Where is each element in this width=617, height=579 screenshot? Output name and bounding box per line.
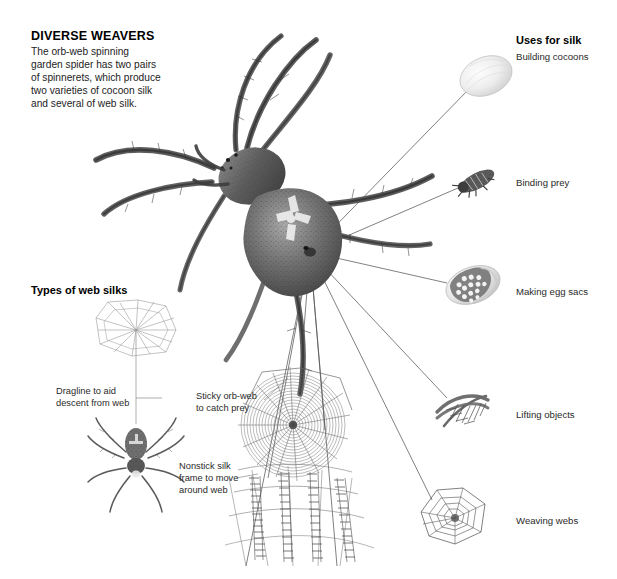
uses-for-silk-heading: Uses for silk <box>516 33 581 47</box>
illustration-canvas: DIVERSE WEAVERS The orb-web spinning gar… <box>0 0 617 579</box>
label-binding-prey: Binding prey <box>516 177 569 189</box>
callout-dragline: Dragline to aid descent from web <box>56 386 129 410</box>
callout-nonstick-frame: Nonstick silk frame to move around web <box>179 461 238 497</box>
cocoon-oval-icon <box>454 48 518 103</box>
egg-sac-icon <box>441 259 506 312</box>
leader-nonstick-label <box>236 474 258 478</box>
hanging-spider-on-dragline <box>88 418 184 512</box>
callout-sticky-orb-web: Sticky orb-web to catch prey <box>196 391 257 415</box>
label-lifting-objects: Lifting objects <box>516 409 575 421</box>
types-of-web-silks-heading: Types of web silks <box>31 283 127 297</box>
intro-paragraph: The orb-web spinning garden spider has t… <box>31 45 161 110</box>
sticky-orb-web-detail <box>238 367 352 481</box>
silk-bundle-icon <box>437 396 488 426</box>
frame-line-3 <box>229 509 364 518</box>
nonstick-frame-section <box>225 464 374 566</box>
wrapped-insect-icon <box>452 165 500 204</box>
page-title: DIVERSE WEAVERS <box>31 28 155 44</box>
label-making-egg-sacs: Making egg sacs <box>516 286 588 298</box>
label-building-cocoons: Building cocoons <box>516 51 589 63</box>
label-weaving-webs: Weaving webs <box>516 515 578 527</box>
